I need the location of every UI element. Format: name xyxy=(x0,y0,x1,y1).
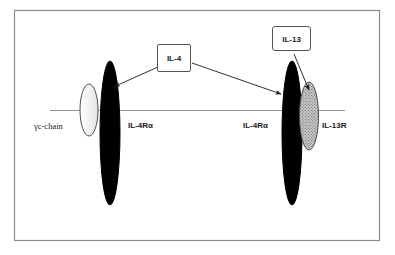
receptor-il13r xyxy=(300,82,319,150)
ligand-label-il4: IL-4 xyxy=(167,54,182,63)
receptor-label-il4ra-right: IL-4Rα xyxy=(243,121,268,130)
ligand-box-il4: IL-4 xyxy=(158,45,191,72)
diagram-canvas: IL-4 IL-13 γc-chain IL-4Rα IL-4Rα IL-13R xyxy=(0,0,395,255)
receptor-il4ra-left xyxy=(100,61,120,205)
receptor-il4ra-right xyxy=(282,61,302,205)
receptor-label-gc-chain: γc-chain xyxy=(33,121,64,131)
receptor-label-il13r: IL-13R xyxy=(322,121,347,130)
ligand-box-il13: IL-13 xyxy=(273,27,311,51)
receptor-label-il4ra-left: IL-4Rα xyxy=(128,121,153,130)
ligand-label-il13: IL-13 xyxy=(282,35,301,44)
receptor-gc-chain xyxy=(80,84,98,136)
